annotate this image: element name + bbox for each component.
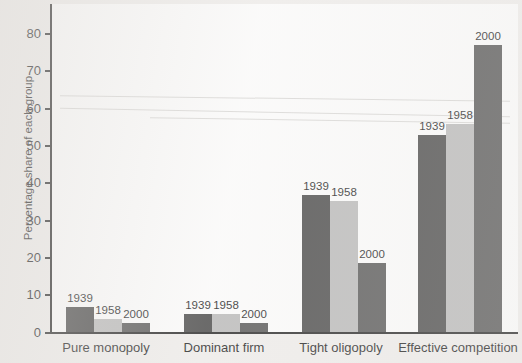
y-tick-mark-20 xyxy=(45,257,52,259)
bar-value-label: 1939 xyxy=(303,180,329,193)
bar-tight-oligopoly-1958: 1958 xyxy=(330,201,358,333)
y-tick-mark-70 xyxy=(45,70,52,72)
bar-effective-competition-2000: 2000 xyxy=(474,45,502,333)
bar-value-label: 1939 xyxy=(419,120,445,133)
y-tick-label-0: 0 xyxy=(34,324,41,341)
bar-pure-monopoly-1939: 1939 xyxy=(66,307,94,333)
y-tick-label-80: 80 xyxy=(27,25,41,42)
bar-tight-oligopoly-1939: 1939 xyxy=(302,195,330,333)
x-category-label-tight-oligopoly: Tight oligopoly xyxy=(288,340,394,355)
bar-value-label: 1939 xyxy=(67,292,93,305)
bar-group-pure-monopoly: 1939 1958 2000 xyxy=(66,4,150,333)
bars-layer: 1939 1958 2000 1939 1958 2000 1939 xyxy=(52,4,518,333)
y-axis-line xyxy=(50,4,52,333)
y-tick-mark-0 xyxy=(45,332,52,334)
y-tick-mark-60 xyxy=(45,108,52,110)
bar-value-label: 1958 xyxy=(331,186,357,199)
y-tick-mark-30 xyxy=(45,220,52,222)
y-tick-label-10: 10 xyxy=(27,286,41,303)
y-tick-mark-10 xyxy=(45,294,52,296)
x-category-label-dominant-firm: Dominant firm xyxy=(172,340,276,355)
bar-value-label: 1958 xyxy=(447,109,473,122)
bar-chart-figure: 0 10 20 30 40 50 60 70 80 Percentage sha… xyxy=(0,0,522,363)
y-axis-title: Percentage share of each group xyxy=(22,48,34,268)
bar-value-label: 2000 xyxy=(123,308,149,321)
bar-group-effective-competition: 1939 1958 2000 xyxy=(418,4,502,333)
bar-dominant-firm-1939: 1939 xyxy=(184,314,212,333)
y-tick-mark-50 xyxy=(45,145,52,147)
bar-value-label: 2000 xyxy=(241,308,267,321)
bar-value-label: 1958 xyxy=(95,304,121,317)
bar-effective-competition-1958: 1958 xyxy=(446,124,474,333)
bar-effective-competition-1939: 1939 xyxy=(418,135,446,333)
y-tick-mark-40 xyxy=(45,182,52,184)
bar-pure-monopoly-1958: 1958 xyxy=(94,319,122,333)
bar-dominant-firm-1958: 1958 xyxy=(212,314,240,333)
bar-value-label: 1939 xyxy=(185,299,211,312)
bar-value-label: 2000 xyxy=(359,248,385,261)
x-category-label-effective-competition: Effective competition xyxy=(394,340,522,355)
bar-group-dominant-firm: 1939 1958 2000 xyxy=(184,4,268,333)
bar-value-label: 1958 xyxy=(213,299,239,312)
x-category-label-pure-monopoly: Pure monopoly xyxy=(54,340,158,355)
bar-tight-oligopoly-2000: 2000 xyxy=(358,263,386,333)
x-axis-line xyxy=(50,332,518,334)
bar-group-tight-oligopoly: 1939 1958 2000 xyxy=(302,4,386,333)
bar-value-label: 2000 xyxy=(475,30,501,43)
y-tick-mark-80 xyxy=(45,33,52,35)
